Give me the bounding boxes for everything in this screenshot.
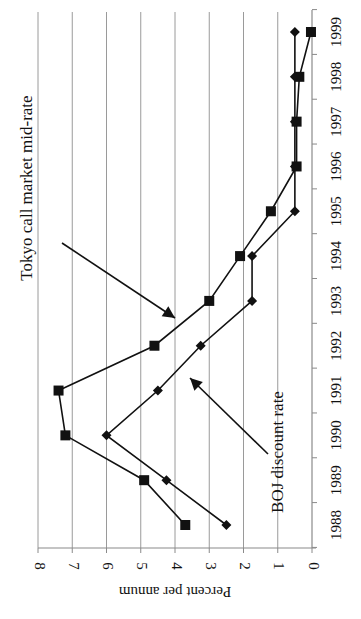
square-marker — [180, 520, 190, 530]
year-tick-label: 1998 — [328, 62, 344, 92]
square-marker — [54, 386, 64, 396]
arrow-boj-rate — [190, 378, 268, 454]
year-tick-label: 1993 — [328, 286, 344, 316]
year-tick-label: 1999 — [328, 17, 344, 47]
year-tick-label: 1992 — [328, 331, 344, 361]
value-tick-label: 2 — [237, 562, 253, 570]
year-tick-label: 1991 — [328, 376, 344, 406]
annotations: Tokyo call market mid-rateBOJ discount r… — [17, 95, 287, 513]
value-tick-label: 7 — [66, 562, 82, 570]
square-marker — [235, 251, 245, 261]
value-tick-label: 3 — [203, 562, 219, 570]
square-marker — [204, 296, 214, 306]
square-marker — [266, 206, 276, 216]
value-tick-label: 1 — [271, 562, 287, 570]
annotation-call-rate: Tokyo call market mid-rate — [17, 95, 36, 280]
series-line-boj-rate — [107, 32, 295, 525]
square-marker — [60, 430, 70, 440]
year-tick-label: 1995 — [328, 196, 344, 226]
rotated-line-chart: Tokyo call market mid-rateBOJ discount r… — [0, 0, 361, 619]
square-marker — [149, 341, 159, 351]
value-axis-title: Percent per annum — [118, 584, 231, 600]
year-tick-label: 1997 — [328, 106, 344, 136]
square-marker — [139, 475, 149, 485]
value-tick-label: 0 — [306, 562, 322, 570]
value-tick-label: 8 — [32, 562, 48, 570]
value-tick-label: 4 — [169, 562, 185, 570]
value-tick-label: 6 — [100, 562, 116, 570]
chart-canvas: Tokyo call market mid-rateBOJ discount r… — [0, 0, 361, 619]
year-tick-label: 1994 — [328, 241, 344, 272]
value-tick-label: 5 — [134, 562, 150, 570]
diamond-marker — [290, 27, 300, 37]
year-tick-label: 1996 — [328, 151, 344, 182]
square-marker — [306, 27, 316, 37]
year-tick-label: 1988 — [328, 510, 344, 540]
year-tick-label: 1989 — [328, 465, 344, 495]
year-tick-label: 1990 — [328, 420, 344, 450]
gridlines — [38, 12, 278, 548]
arrow-call-rate — [62, 243, 175, 318]
annotation-boj-rate: BOJ discount rate — [268, 391, 287, 513]
